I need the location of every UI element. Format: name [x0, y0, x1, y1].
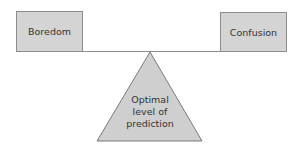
confusion-label: Confusion [230, 27, 277, 38]
fulcrum-label-line-3: prediction [126, 118, 174, 129]
balance-diagram: Boredom Confusion Optimal level of predi… [0, 0, 302, 152]
fulcrum-label-line-1: Optimal [131, 94, 169, 105]
fulcrum-label-line-2: level of [133, 106, 168, 117]
boredom-label: Boredom [28, 26, 71, 37]
